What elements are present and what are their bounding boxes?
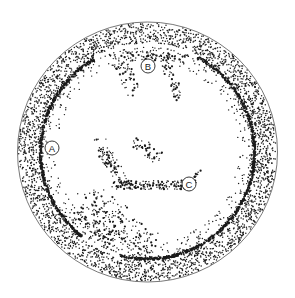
label-c: C [182,177,196,191]
label-b-text: B [145,61,151,72]
dish-illustration: A B C [0,0,295,298]
label-a: A [45,141,59,155]
label-a-text: A [49,143,56,154]
label-b: B [141,59,155,73]
label-c-text: C [186,179,193,190]
